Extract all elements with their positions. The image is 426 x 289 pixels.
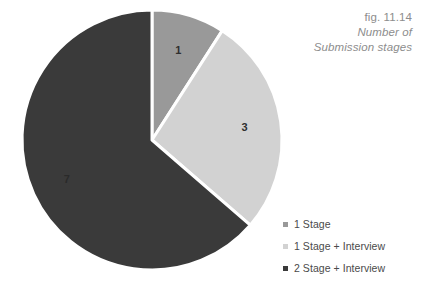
legend-item-label: 1 Stage + Interview [294,240,385,252]
legend-item-2-stage-interview[interactable]: 2 Stage + Interview [283,257,423,279]
square-swatch-icon [283,244,288,249]
pie-slice-value-label: 3 [242,121,248,133]
legend-item-label: 2 Stage + Interview [294,262,385,274]
figure-container: fig. 11.14 Number of Submission stages 1… [0,0,426,289]
square-swatch-icon [283,222,288,227]
legend-item-label: 1 Stage [294,218,331,230]
legend-item-1-stage[interactable]: 1 Stage [283,213,423,235]
legend-item-1-stage-interview[interactable]: 1 Stage + Interview [283,235,423,257]
pie-slice-value-label: 1 [175,44,181,56]
pie-slice-value-label: 7 [64,173,70,185]
chart-legend: 1 Stage 1 Stage + Interview 2 Stage + In… [283,213,423,279]
square-swatch-icon [283,266,288,271]
